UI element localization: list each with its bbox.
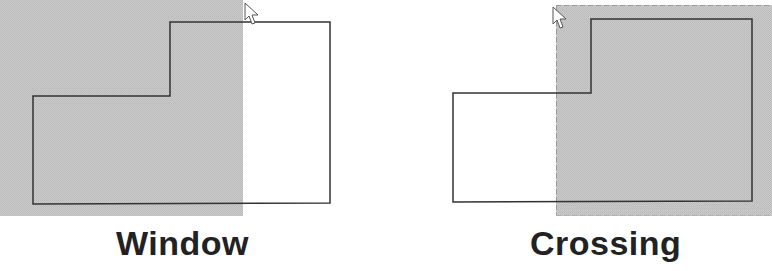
- crossing-selection-area: [556, 5, 772, 216]
- crossing-panel: [453, 5, 772, 216]
- crossing-label: Crossing: [530, 224, 681, 263]
- window-panel: [0, 0, 330, 216]
- window-label: Window: [116, 224, 249, 263]
- cursor-arrow-icon: [245, 3, 258, 24]
- window-selection-area: [0, 0, 243, 216]
